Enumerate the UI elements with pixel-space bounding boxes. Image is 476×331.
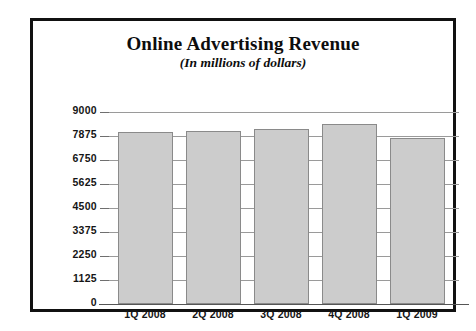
x-label-3q-2008: 3Q 2008 xyxy=(247,308,315,320)
y-tick-mark xyxy=(100,232,109,233)
plot-area xyxy=(109,112,459,304)
y-tick-mark xyxy=(100,112,109,113)
y-tick-label: 1125 xyxy=(73,272,97,284)
x-axis-line xyxy=(99,304,469,305)
y-tick-label: 6750 xyxy=(72,152,97,164)
y-tick-mark xyxy=(100,136,109,137)
y-tick-label: 7875 xyxy=(72,128,97,140)
bar-3q-2008[interactable] xyxy=(254,129,309,304)
y-tick-mark xyxy=(100,280,109,281)
x-label-2q-2008: 2Q 2008 xyxy=(179,308,247,320)
chart-subtitle: (In millions of dollars) xyxy=(33,55,453,71)
x-label-1q-2009: 1Q 2009 xyxy=(383,308,451,320)
bar-4q-2008[interactable] xyxy=(322,124,377,304)
y-tick-label: 0 xyxy=(91,296,97,308)
y-tick-label: 4500 xyxy=(72,200,97,212)
bar-2q-2008[interactable] xyxy=(186,131,241,304)
y-tick-mark xyxy=(100,256,109,257)
bar-1q-2008[interactable] xyxy=(118,132,173,304)
title-block: Online Advertising Revenue (In millions … xyxy=(33,33,453,71)
bars-layer xyxy=(109,112,459,304)
y-tick-label: 3375 xyxy=(72,224,97,236)
y-tick-label: 5625 xyxy=(72,176,97,188)
y-axis: 0 1125 2250 3375 4500 5625 xyxy=(63,112,109,304)
y-tick-mark xyxy=(100,160,109,161)
y-tick-mark xyxy=(100,208,109,209)
chart-figure: Online Advertising Revenue (In millions … xyxy=(0,0,476,331)
x-axis-labels: 1Q 2008 2Q 2008 3Q 2008 4Q 2008 1Q 2009 xyxy=(109,308,459,326)
bar-1q-2009[interactable] xyxy=(390,138,445,304)
x-label-4q-2008: 4Q 2008 xyxy=(315,308,383,320)
chart-title: Online Advertising Revenue xyxy=(33,33,453,55)
y-tick-mark xyxy=(100,184,109,185)
x-label-1q-2008: 1Q 2008 xyxy=(111,308,179,320)
chart-frame: Online Advertising Revenue (In millions … xyxy=(30,18,456,312)
y-tick-label: 2250 xyxy=(72,248,97,260)
y-tick-label: 9000 xyxy=(72,104,97,116)
